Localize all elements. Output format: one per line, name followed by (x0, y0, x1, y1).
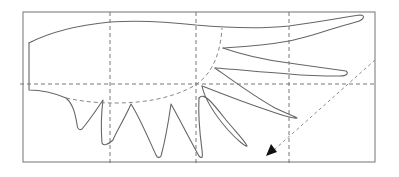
template-frame (23, 12, 375, 162)
grid-lines (20, 12, 375, 165)
wing-template-diagram (0, 0, 399, 177)
fold-line (66, 28, 222, 103)
lower-spikes (29, 43, 202, 158)
feather-2 (215, 48, 347, 76)
feather-3 (202, 68, 297, 118)
fold-direction-arrow (266, 60, 375, 156)
arrow-head-icon (266, 144, 277, 156)
feather-4 (199, 86, 247, 146)
